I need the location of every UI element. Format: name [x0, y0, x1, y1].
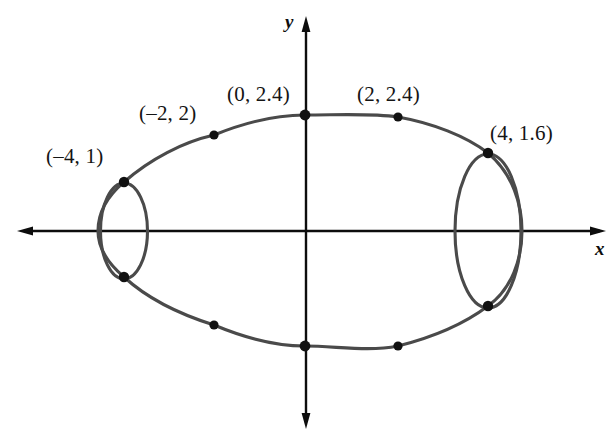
point-label-0-2p4: (0, 2.4): [227, 84, 290, 105]
y-axis-arrow-up-icon: [302, 16, 311, 32]
plot-canvas: [0, 0, 615, 437]
point-label-4-1p6: (4, 1.6): [490, 123, 553, 144]
point-neg4-neg1: [119, 272, 129, 282]
x-axis-arrow-left-icon: [17, 227, 33, 236]
y-axis-arrow-down-icon: [302, 413, 311, 429]
x-axis-arrow-right-icon: [590, 227, 606, 236]
point-label-2-2p4: (2, 2.4): [357, 84, 420, 105]
point-neg4-1: [119, 177, 129, 187]
graph-figure: (–4, 1) (–2, 2) (0, 2.4) (2, 2.4) (4, 1.…: [0, 0, 615, 437]
point-neg2-neg2: [209, 320, 218, 329]
point-2-2p4: [393, 112, 402, 121]
point-2-neg2p4: [393, 341, 402, 350]
axes-group: [17, 16, 606, 429]
point-0-neg2p4: [300, 341, 311, 352]
point-neg2-2: [209, 130, 218, 139]
y-axis-label: y: [285, 12, 293, 31]
point-label-neg4-1: (–4, 1): [46, 146, 103, 167]
point-0-2p4: [300, 110, 311, 121]
point-4-1p6: [483, 148, 493, 158]
point-4-neg1p6: [483, 301, 493, 311]
point-label-neg2-2: (–2, 2): [139, 103, 196, 124]
x-axis-label: x: [595, 239, 605, 258]
